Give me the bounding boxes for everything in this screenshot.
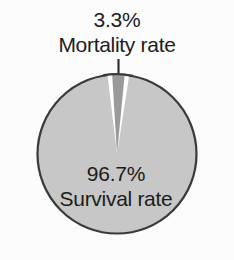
survival-name-label: Survival rate [0,187,233,211]
survival-value-label: 96.7% [0,162,233,186]
callout-survival-rate: 96.7% Survival rate [0,162,233,210]
pie-chart-figure: 3.3% Mortality rate 96.7% Survival rate [0,0,234,260]
mortality-value-label: 3.3% [0,8,234,32]
mortality-name-label: Mortality rate [0,33,234,57]
callout-mortality-rate: 3.3% Mortality rate [0,8,234,56]
